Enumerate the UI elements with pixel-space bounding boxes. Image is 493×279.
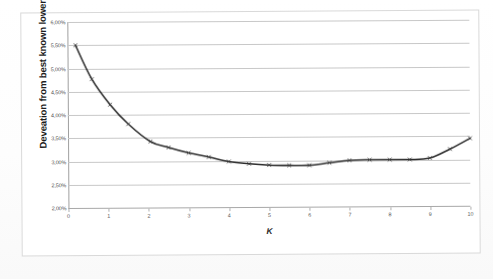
x-axis-tick-label: 1 [107, 213, 110, 219]
x-axis-tick-mark [229, 208, 230, 211]
x-axis-tick-mark [430, 207, 431, 210]
x-axis-tick-label: 0 [67, 213, 70, 219]
y-axis-tick-label: 3,00% [22, 159, 66, 165]
y-axis-tick-label: 3,50% [22, 135, 66, 141]
figure-canvas: Deveation from best known lower bound 2,… [0, 0, 493, 279]
y-axis-tick-label: 2,50% [22, 182, 66, 188]
x-axis-tick-mark [350, 207, 351, 210]
x-axis-tick-mark [269, 208, 270, 211]
x-axis-tick-label: 2 [147, 213, 150, 219]
y-axis-tick-label: 6,00% [21, 19, 65, 25]
x-axis-tick-label: 4 [228, 212, 231, 218]
x-axis-tick-labels: 012345678910 [68, 211, 470, 225]
x-axis-tick-mark [390, 207, 391, 210]
x-axis-title: K [69, 225, 471, 237]
x-axis-tick-mark [149, 209, 150, 212]
x-axis-tick-mark [310, 208, 311, 211]
series-data-markers [74, 41, 473, 169]
y-axis-tick-label: 4,50% [22, 89, 66, 95]
y-axis-tick-label: 2,00% [22, 205, 66, 211]
data-point-marker [108, 103, 112, 107]
x-axis-tick-label: 5 [268, 212, 271, 218]
x-axis-tick-label: 7 [348, 211, 351, 217]
y-axis-tick-label: 5,50% [21, 42, 65, 48]
x-axis-tick-mark [68, 209, 69, 212]
x-axis-tick-mark [189, 208, 190, 211]
chart-plot-wrapper: Deveation from best known lower bound 2,… [0, 0, 493, 279]
x-axis-tick-label: 6 [308, 212, 311, 218]
plot-area [67, 20, 470, 208]
x-axis-tick-mark [109, 209, 110, 212]
x-axis-tick-mark [470, 207, 471, 210]
series-line-chart [67, 20, 470, 208]
y-axis-tick-labels: 2,00%2,50%3,00%3,50%4,00%4,50%5,00%5,50%… [19, 22, 66, 208]
x-axis-tick-label: 9 [429, 211, 432, 217]
y-axis-tick-label: 5,00% [22, 66, 66, 72]
y-axis-tick-label: 4,00% [22, 112, 66, 118]
x-axis-tick-label: 10 [467, 211, 473, 217]
series-path-line [76, 43, 471, 167]
data-point-marker [126, 122, 130, 126]
x-axis-tick-label: 3 [188, 212, 191, 218]
x-axis-tick-label: 8 [389, 211, 392, 217]
